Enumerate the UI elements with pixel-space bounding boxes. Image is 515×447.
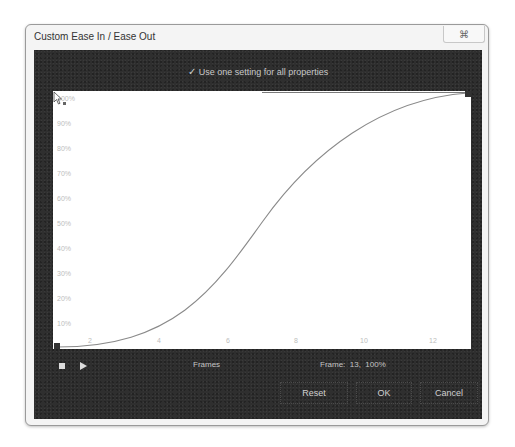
pointer-cursor-icon [53, 91, 69, 107]
custom-ease-dialog: Custom Ease In / Ease Out ⌘ ✓Use one set… [25, 24, 489, 426]
y-tick-label: 40% [57, 245, 71, 252]
title-bar[interactable]: Custom Ease In / Ease Out ⌘ [26, 25, 488, 50]
close-icon: ⌘ [459, 29, 469, 40]
y-tick-label: 70% [57, 170, 71, 177]
y-tick-label: 30% [57, 270, 71, 277]
y-tick-label: 10% [57, 320, 71, 327]
frames-axis-label: Frames [193, 360, 220, 369]
x-tick-label: 2 [88, 337, 92, 344]
dialog-title: Custom Ease In / Ease Out [34, 31, 155, 42]
y-tick-label: 60% [57, 195, 71, 202]
y-tick-label: 90% [57, 120, 71, 127]
reset-button[interactable]: Reset [280, 382, 348, 404]
y-tick-label: 50% [57, 220, 71, 227]
stop-button[interactable] [59, 363, 65, 369]
dialog-buttons: Reset OK Cancel [34, 382, 482, 404]
x-tick-label: 4 [157, 337, 161, 344]
frame-readout: Frame: 13, 100% [320, 360, 386, 369]
x-tick-label: 6 [226, 337, 230, 344]
x-tick-label: 12 [429, 337, 437, 344]
y-tick-label: 20% [57, 295, 71, 302]
cancel-button[interactable]: Cancel [420, 382, 478, 404]
ease-curve [57, 93, 468, 347]
ok-button[interactable]: OK [356, 382, 412, 404]
x-tick-label: 8 [294, 337, 298, 344]
ease-panel: ✓Use one setting for all properties 100%… [34, 50, 482, 419]
x-tick-label: 10 [360, 337, 368, 344]
play-button[interactable] [80, 362, 87, 370]
ease-curve-graph[interactable]: 100% 90% 80% 70% 60% 50% 40% 30% 20% 10%… [53, 91, 471, 349]
checkmark-icon: ✓ [188, 66, 196, 77]
start-control-point[interactable] [54, 343, 60, 349]
use-one-setting-checkbox[interactable]: ✓Use one setting for all properties [34, 66, 482, 77]
end-control-point[interactable] [465, 91, 471, 97]
use-one-setting-label: Use one setting for all properties [199, 67, 329, 77]
ease-curve-svg [53, 91, 471, 349]
y-tick-label: 80% [57, 145, 71, 152]
close-button[interactable]: ⌘ [443, 26, 485, 43]
playback-controls: Frames Frame: 13, 100% [34, 357, 482, 377]
